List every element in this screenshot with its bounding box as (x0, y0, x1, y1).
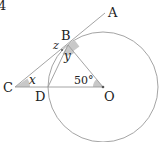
angle-y-label: y (63, 49, 71, 63)
angle-O-label: 50° (74, 74, 94, 87)
label-O: O (104, 89, 115, 104)
label-D: D (35, 89, 45, 104)
label-A: A (107, 5, 118, 20)
angle-x-shade (15, 79, 30, 87)
question-number: 4 (0, 0, 6, 13)
label-B: B (61, 28, 71, 43)
label-C: C (3, 80, 13, 95)
angle-x-label: x (29, 73, 36, 87)
geometry-diagram: 4 A B C D O x y z 50° (0, 0, 164, 142)
angle-z-label: z (52, 39, 59, 52)
point-O-dot (102, 86, 105, 89)
point-B-dot (61, 49, 63, 51)
